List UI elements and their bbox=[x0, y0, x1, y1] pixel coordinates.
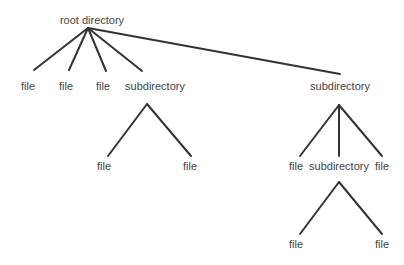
tree-edge bbox=[88, 28, 340, 74]
node-file: file bbox=[183, 160, 197, 172]
tree-edge bbox=[339, 182, 382, 234]
node-file: file bbox=[97, 160, 111, 172]
node-subdirectory: subdirectory bbox=[309, 160, 369, 172]
tree-edge bbox=[34, 28, 88, 70]
directory-tree-diagram: root directory file file file subdirecto… bbox=[0, 0, 404, 265]
tree-edge bbox=[147, 104, 191, 156]
node-root-directory: root directory bbox=[60, 14, 125, 26]
node-file: file bbox=[59, 80, 73, 92]
node-file: file bbox=[375, 238, 389, 250]
node-file: file bbox=[289, 160, 303, 172]
tree-edge bbox=[300, 105, 339, 156]
tree-edge bbox=[108, 104, 147, 156]
tree-edge bbox=[300, 182, 339, 234]
node-file: file bbox=[96, 80, 110, 92]
node-file: file bbox=[21, 80, 35, 92]
node-subdirectory: subdirectory bbox=[310, 80, 370, 92]
node-file: file bbox=[375, 160, 389, 172]
node-file: file bbox=[289, 238, 303, 250]
node-subdirectory: subdirectory bbox=[125, 80, 185, 92]
tree-edges bbox=[34, 28, 382, 234]
tree-edge bbox=[339, 105, 382, 156]
